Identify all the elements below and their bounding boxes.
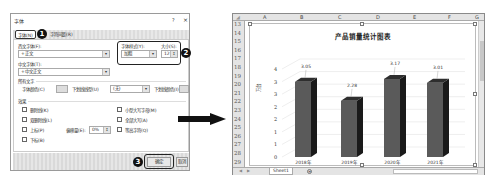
svg-text:万台: 万台: [255, 83, 262, 92]
font-size-input[interactable]: 12 ↕: [161, 50, 178, 58]
row-header[interactable]: 28: [234, 150, 241, 156]
column-header[interactable]: E: [413, 14, 416, 21]
row-header[interactable]: 20: [234, 81, 241, 87]
svg-text:3: 3: [274, 91, 277, 97]
font-style-value: 加粗: [124, 51, 132, 56]
column-header[interactable]: C: [338, 14, 342, 21]
chevron-down-icon: ▾: [149, 51, 156, 57]
row-header[interactable]: 17: [234, 55, 241, 61]
row-header[interactable]: 16: [234, 47, 241, 53]
tab-char-spacing[interactable]: 字符间距(R): [48, 30, 75, 39]
divider: [36, 81, 186, 82]
offset-input[interactable]: 0% ↕: [89, 126, 111, 134]
tab-nav-left-icon[interactable]: ◀: [239, 168, 242, 173]
step-badge-1: 1: [37, 29, 47, 39]
underline-type-select[interactable]: (无) ▾: [110, 85, 150, 93]
row-header[interactable]: 14: [234, 30, 241, 36]
vertical-scrollbar[interactable]: [478, 21, 484, 167]
tab-nav-right-icon[interactable]: ▶: [247, 168, 250, 173]
close-button[interactable]: ×: [183, 16, 188, 23]
row-header[interactable]: 13: [234, 21, 241, 27]
font-size-label: 大小(S):: [161, 43, 177, 49]
svg-text:3: 3: [274, 79, 277, 85]
svg-text:2018年: 2018年: [295, 159, 311, 166]
underline-type-label: 下划线线型(U): [72, 86, 99, 92]
font-dialog: 字体 ? × 字体(N) 字符间距(R) 1 西文字体(F): +正文 ▾ 中文…: [10, 13, 190, 171]
tab-font[interactable]: 字体(N): [15, 30, 36, 39]
chevron-down-icon: ▾: [102, 51, 109, 57]
spinner-icon[interactable]: ↕: [170, 51, 177, 57]
row-header[interactable]: 18: [234, 64, 241, 70]
small-caps-checkbox[interactable]: [117, 107, 122, 112]
svg-text:1: 1: [274, 129, 277, 135]
add-sheet-button[interactable]: +: [307, 169, 312, 174]
offset-value: 0%: [92, 127, 99, 132]
help-button[interactable]: ?: [172, 17, 175, 23]
svg-text:2: 2: [274, 104, 277, 110]
row-header[interactable]: 24: [234, 116, 241, 122]
sheet-tab-sheet1[interactable]: Sheet1: [269, 168, 293, 175]
double-strikethrough-checkbox[interactable]: [22, 117, 27, 122]
small-caps-label: 小型大写字母(M): [125, 107, 156, 113]
equalize-height-checkbox[interactable]: [117, 127, 122, 132]
dialog-footer: 3 确定 取消: [13, 153, 189, 170]
all-text-label: 所有文字: [18, 78, 34, 84]
all-caps-checkbox[interactable]: [117, 117, 122, 122]
asian-font-value: +中文正文: [21, 69, 41, 74]
font-style-select[interactable]: 加粗 ▾: [121, 50, 157, 58]
superscript-label: 上标(P): [30, 127, 44, 133]
bar-chart: 01122334万台3.052018年2.282019年3.172020年3.0…: [250, 24, 477, 167]
cancel-button[interactable]: 取消: [176, 157, 188, 167]
subscript-checkbox[interactable]: [22, 137, 27, 142]
font-color-label: 字体颜色(C): [22, 86, 45, 92]
horizontal-scrollbar[interactable]: [393, 169, 478, 174]
underline-color-label: 下划线颜色(I): [154, 86, 179, 92]
offset-label: 偏移量(E):: [66, 127, 86, 133]
row-header[interactable]: 25: [234, 124, 241, 130]
equalize-height-label: 等高字符(Q): [125, 127, 148, 133]
row-header[interactable]: 27: [234, 141, 241, 147]
underline-color-picker[interactable]: [179, 85, 189, 93]
row-header[interactable]: 26: [234, 133, 241, 139]
scroll-thumb[interactable]: [480, 41, 484, 81]
row-header-bar: 1314151617181920212223242526272829: [233, 21, 245, 167]
column-header[interactable]: D: [376, 14, 380, 21]
ok-button[interactable]: 确定: [147, 157, 171, 167]
column-header[interactable]: A: [263, 14, 266, 21]
column-header[interactable]: G: [475, 14, 479, 21]
strikethrough-label: 删除线(K): [30, 107, 48, 113]
svg-text:3.01: 3.01: [433, 65, 443, 70]
svg-text:3.17: 3.17: [390, 61, 400, 66]
dialog-title: 字体: [14, 17, 24, 24]
column-header[interactable]: B: [300, 14, 303, 21]
svg-text:2019年: 2019年: [341, 159, 357, 166]
font-color-picker[interactable]: [56, 85, 68, 93]
double-strikethrough-label: 双删除线(L): [30, 117, 52, 123]
svg-text:2021年: 2021年: [427, 159, 443, 166]
western-font-select[interactable]: +正文 ▾: [18, 50, 110, 58]
column-header-bar: ◢ A B C D E F G: [233, 14, 484, 21]
row-header[interactable]: 29: [234, 159, 241, 165]
select-all-corner[interactable]: ◢: [236, 14, 240, 21]
chevron-down-icon: ▾: [102, 69, 109, 75]
row-header[interactable]: 21: [234, 90, 241, 96]
strikethrough-checkbox[interactable]: [22, 107, 27, 112]
row-header[interactable]: 23: [234, 107, 241, 113]
chart-area[interactable]: 产品销量统计图表 01122334万台3.052018年2.282019年3.1…: [249, 23, 476, 166]
chevron-down-icon: ▾: [142, 86, 149, 92]
underline-type-value: (无): [113, 86, 121, 91]
asian-font-select[interactable]: +中文正文 ▾: [18, 68, 110, 76]
svg-text:3.05: 3.05: [301, 64, 311, 69]
row-header[interactable]: 22: [234, 98, 241, 104]
row-header[interactable]: 15: [234, 38, 241, 44]
effects-label: 效果: [18, 98, 26, 104]
step-badge-3: 3: [133, 157, 143, 167]
spinner-icon[interactable]: ↕: [103, 127, 110, 133]
font-style-label: 字体样式(Y):: [121, 43, 145, 49]
superscript-checkbox[interactable]: [22, 127, 27, 132]
svg-text:2.28: 2.28: [347, 83, 357, 88]
row-header[interactable]: 19: [234, 73, 241, 79]
column-header[interactable]: F: [448, 14, 451, 21]
svg-text:2020年: 2020年: [384, 159, 400, 166]
tab-bar: 字体(N) 字符间距(R) 1: [13, 30, 189, 39]
